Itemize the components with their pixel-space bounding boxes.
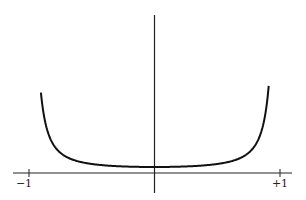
x-tick-label-0: −1 xyxy=(16,177,32,190)
chart: −1+1 xyxy=(0,0,306,200)
x-tick-label-1: +1 xyxy=(272,177,288,190)
